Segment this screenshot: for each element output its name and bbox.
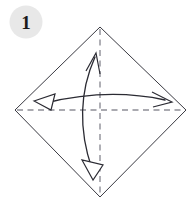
origami-step-diagram: 1 [0,0,195,205]
diagram-canvas: 1 [0,0,195,205]
step-badge: 1 [10,6,43,39]
step-badge-label: 1 [21,12,31,33]
